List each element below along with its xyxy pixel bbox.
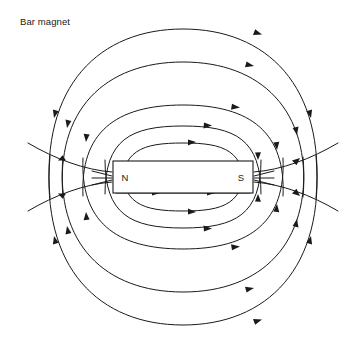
arrowhead-lower-4b xyxy=(293,219,299,228)
escaping-field-lines-right xyxy=(254,143,338,211)
arrowhead-escape-left-upper xyxy=(58,155,66,160)
field-line-escape-left-upper xyxy=(28,143,112,172)
arrowhead-upper-4c xyxy=(66,120,72,128)
arrowhead-upper-3c xyxy=(84,134,90,142)
arrowhead-lower-1 xyxy=(188,209,196,215)
arrowhead-lower-4 xyxy=(245,287,254,293)
bar-magnet-field-figure: Bar magnet xyxy=(0,0,363,352)
magnetic-field-diagram: N S xyxy=(0,0,363,352)
arrowhead-lower-5 xyxy=(253,319,262,325)
arrowhead-upper-5 xyxy=(253,29,262,35)
arrowhead-lower-4c xyxy=(66,226,72,234)
arrowhead-upper-4b xyxy=(293,127,299,136)
field-line-escape-left-lower xyxy=(28,182,112,211)
arrowhead-upper-3 xyxy=(231,104,240,110)
arrowhead-upper-4 xyxy=(245,61,254,67)
field-line-escape-right-lower xyxy=(254,182,338,211)
pole-radiating-lines-north xyxy=(92,171,112,185)
bar-magnet: N S xyxy=(113,161,253,193)
escaping-field-lines-left xyxy=(28,143,112,211)
south-pole-label: S xyxy=(238,172,244,183)
arrowhead-escape-left-lower xyxy=(58,193,66,198)
arrowhead-lower-3 xyxy=(231,244,240,250)
pole-radiating-lines-south xyxy=(254,171,274,185)
field-line-escape-right-upper xyxy=(254,143,338,172)
arrowhead-upper-1 xyxy=(188,140,196,146)
arrowhead-lower-3c xyxy=(84,212,90,220)
north-pole-label: N xyxy=(122,172,129,183)
magnet-rectangle xyxy=(113,161,253,193)
